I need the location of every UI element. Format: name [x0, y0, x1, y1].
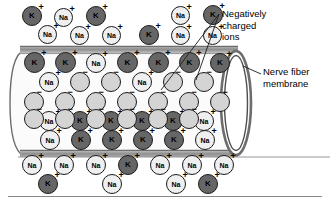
nerve-fiber-membrane-diagram: K+Na+K+Na+K+Na+Na+Na+K+Na+Na+K+K+Na+K+K+… [0, 0, 330, 208]
leader-lines [0, 0, 330, 208]
leader-nerve-fiber-membrane [243, 66, 261, 74]
bottom-divider-rule [8, 196, 322, 197]
nerve-fiber-membrane-label: Nerve fiber membrane [263, 66, 309, 89]
leader-negative-ions-1 [161, 14, 219, 90]
leader-negative-ions-2 [196, 14, 219, 80]
negatively-charged-ions-label: Negatively charged ions [222, 8, 266, 43]
